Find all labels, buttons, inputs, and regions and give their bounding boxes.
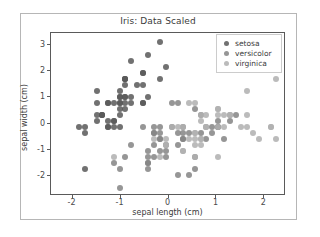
data-point [151, 136, 157, 142]
legend-item-setosa[interactable]: setosa [221, 39, 278, 48]
data-point [82, 166, 88, 172]
data-point [151, 154, 157, 160]
data-point [215, 106, 221, 112]
x-tick-label: 0 [165, 198, 170, 207]
y-tick-label: 0 [33, 118, 45, 127]
data-point [163, 154, 169, 160]
data-point [145, 154, 151, 160]
data-point [94, 100, 100, 106]
data-point [221, 112, 227, 118]
data-point [203, 136, 209, 142]
data-point [128, 58, 134, 64]
data-point [203, 112, 209, 118]
data-point [111, 118, 117, 124]
data-point [192, 136, 198, 142]
data-point [94, 88, 100, 94]
data-point [169, 100, 175, 106]
data-point [256, 136, 262, 142]
data-point [215, 154, 221, 160]
y-tick-mark [47, 149, 50, 150]
data-point [163, 142, 169, 148]
data-point [128, 100, 134, 106]
x-tick-label: -1 [116, 198, 124, 207]
data-point [128, 94, 134, 100]
data-point [163, 64, 169, 70]
data-point [192, 142, 198, 148]
data-point [244, 88, 250, 94]
data-point [122, 76, 128, 82]
data-point [268, 124, 274, 130]
data-point [227, 118, 233, 124]
data-point [82, 124, 88, 130]
data-point [94, 118, 100, 124]
data-point [209, 130, 215, 136]
data-point [117, 124, 123, 130]
data-point [140, 70, 146, 76]
legend: setosaversicolorvirginica [216, 34, 282, 73]
data-point [157, 76, 163, 82]
data-point [273, 76, 279, 82]
data-point [215, 124, 221, 130]
data-point [140, 124, 146, 130]
data-point [273, 136, 279, 142]
data-point [145, 160, 151, 166]
data-point [140, 82, 146, 88]
data-point [122, 154, 128, 160]
data-point [111, 124, 117, 130]
data-point [175, 130, 181, 136]
data-point [76, 124, 82, 130]
x-tick-label: 2 [261, 198, 266, 207]
data-point [145, 166, 151, 172]
data-point [250, 130, 256, 136]
legend-marker-icon [224, 61, 229, 66]
legend-item-virginica[interactable]: virginica [221, 59, 278, 68]
data-point [198, 142, 204, 148]
data-point [122, 100, 128, 106]
data-point [198, 118, 204, 124]
data-point [117, 112, 123, 118]
data-point [186, 100, 192, 106]
y-tick-label: 3 [33, 39, 45, 48]
chart-title: Iris: Data Scaled [30, 16, 286, 26]
data-point [151, 142, 157, 148]
data-point [203, 124, 209, 130]
data-point [117, 106, 123, 112]
data-point [82, 130, 88, 136]
data-point [140, 100, 146, 106]
data-point [244, 124, 250, 130]
data-point [117, 166, 123, 172]
data-point [145, 148, 151, 154]
data-point [233, 112, 239, 118]
legend-marker-icon [224, 41, 229, 46]
legend-item-label: setosa [235, 39, 260, 48]
y-tick-label: 1 [33, 92, 45, 101]
y-axis-label: sepal width (cm) [20, 73, 29, 163]
data-point [180, 124, 186, 130]
data-point [175, 172, 181, 178]
y-tick-mark [47, 70, 50, 71]
y-tick-label: 2 [33, 66, 45, 75]
data-point [221, 124, 227, 130]
data-point [209, 124, 215, 130]
data-point [198, 136, 204, 142]
data-point [128, 142, 134, 148]
data-point [163, 148, 169, 154]
data-point [227, 112, 233, 118]
legend-item-label: versicolor [235, 49, 272, 58]
x-tick-label: -2 [68, 198, 76, 207]
data-point [111, 100, 117, 106]
data-point [99, 112, 105, 118]
data-point [122, 82, 128, 88]
data-point [145, 52, 151, 58]
data-point [169, 124, 175, 130]
y-tick-mark [47, 44, 50, 45]
data-point [175, 124, 181, 130]
data-point [134, 82, 140, 88]
y-tick-mark [47, 96, 50, 97]
data-point [157, 154, 163, 160]
data-point [117, 88, 123, 94]
data-point [145, 94, 151, 100]
legend-item-label: virginica [235, 59, 267, 68]
legend-item-versicolor[interactable]: versicolor [221, 49, 278, 58]
x-tick-label: 1 [213, 198, 218, 207]
